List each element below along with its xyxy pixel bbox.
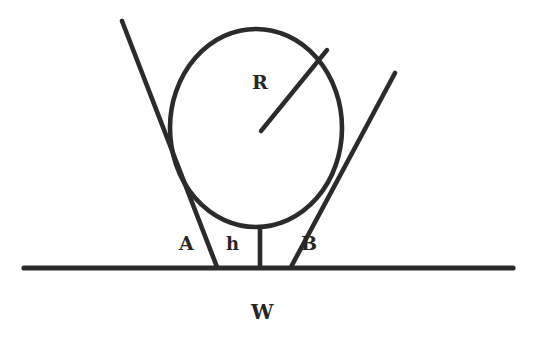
- radius-line: [261, 50, 327, 131]
- label-right-contact: B: [301, 234, 318, 253]
- label-left-contact: A: [179, 234, 194, 253]
- figure-canvas: R A h B W: [0, 0, 536, 346]
- label-ground: W: [251, 302, 274, 322]
- label-height: h: [226, 235, 240, 253]
- circle-shape: [170, 29, 342, 227]
- geometry-drawing: [0, 0, 536, 346]
- left-wedge-line: [122, 21, 217, 267]
- label-radius: R: [252, 73, 268, 92]
